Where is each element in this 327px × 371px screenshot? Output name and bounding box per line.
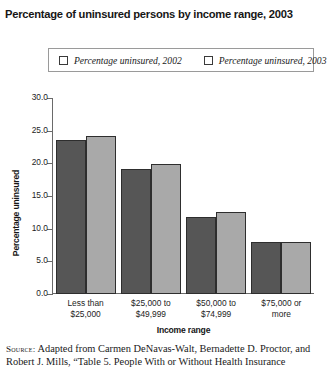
x-tick-label-line: $25,000 [53, 309, 118, 320]
bar-group [249, 98, 314, 294]
x-tick-label: Less than$25,000 [53, 298, 118, 319]
x-tick-label-line: $49,999 [118, 309, 183, 320]
legend-item-2002: Percentage uninsured, 2002 [59, 55, 182, 66]
y-tick-label: 20.0 [32, 157, 48, 167]
bar [86, 136, 116, 294]
source-note: Source: Adapted from Carmen DeNavas-Walt… [6, 343, 322, 368]
bar [251, 242, 281, 294]
y-tick-label: 10.0 [32, 223, 48, 233]
x-tick-label-line: $25,000 to [118, 298, 183, 309]
x-tick-label-line: $50,000 to [184, 298, 249, 309]
x-tick-label-line: Less than [53, 298, 118, 309]
x-axis-title: Income range [53, 325, 314, 335]
bar [216, 212, 246, 294]
y-tick: 0.0 [52, 294, 53, 295]
source-keyword: Source: [6, 344, 35, 354]
source-text: Adapted from Carmen DeNavas-Walt, Bernad… [6, 343, 310, 367]
bar-group [184, 98, 249, 294]
legend-swatch-2002-icon [59, 56, 68, 65]
bar-group [53, 98, 118, 294]
y-tick-label: 30.0 [32, 92, 48, 102]
y-tick-label: 15.0 [32, 190, 48, 200]
x-tick-label: $75,000 ormore [249, 298, 314, 319]
y-tick-label: 0.0 [36, 288, 48, 298]
chart-plot-area: Percentage uninsured 0.05.010.015.020.02… [0, 86, 327, 326]
bar [121, 169, 151, 294]
x-tick-label: $50,000 to$74,999 [184, 298, 249, 319]
x-tick-label: $25,000 to$49,999 [118, 298, 183, 319]
page-title: Percentage of uninsured persons by incom… [5, 8, 322, 21]
axis-area: 0.05.010.015.020.025.030.0 [52, 98, 314, 294]
bar [186, 217, 216, 294]
x-tick-label-line: $75,000 or [249, 298, 314, 309]
legend-label-2003: Percentage uninsured, 2003 [219, 55, 327, 66]
bar [56, 140, 86, 294]
legend-label-2002: Percentage uninsured, 2002 [74, 55, 182, 66]
bar-group [118, 98, 183, 294]
y-axis-title: Percentage uninsured [11, 153, 21, 273]
legend-item-2003: Percentage uninsured, 2003 [204, 55, 327, 66]
bar-series-layer [53, 98, 314, 294]
x-tick-label-line: more [249, 309, 314, 320]
bar [281, 242, 311, 294]
legend-swatch-2003-icon [204, 56, 213, 65]
y-tick-label: 5.0 [36, 255, 48, 265]
chart-legend: Percentage uninsured, 2002 Percentage un… [48, 48, 314, 72]
bar [151, 164, 181, 294]
y-tick-label: 25.0 [32, 125, 48, 135]
x-tick-label-line: $74,999 [184, 309, 249, 320]
x-axis-tick-labels: Less than$25,000$25,000 to$49,999$50,000… [53, 298, 314, 319]
